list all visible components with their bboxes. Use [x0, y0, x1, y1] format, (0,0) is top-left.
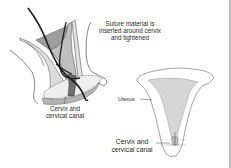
suture-label-line-2: inserted around cervix — [94, 27, 166, 34]
cerclage-diagram: Suture material is inserted around cervi… — [0, 0, 231, 168]
cervix-right-line-2: cervical canal — [106, 146, 158, 154]
cervix-left-line-2: cervical canal — [40, 112, 90, 119]
uterus-label: Uterus — [118, 96, 134, 103]
cervix-label-side-view: Cervix and cervical canal — [40, 105, 90, 119]
cervix-label-frontal-view: Cervix and cervical canal — [106, 138, 158, 153]
suture-label-line-3: and tightened — [94, 34, 166, 41]
frame-edge — [229, 0, 231, 168]
side-view-illustration — [10, 8, 107, 105]
suture-label: Suture material is inserted around cervi… — [94, 20, 166, 41]
cervix-right-line-1: Cervix and — [106, 138, 158, 146]
suture-label-line-1: Suture material is — [94, 20, 166, 27]
cervix-left-line-1: Cervix and — [40, 105, 90, 112]
